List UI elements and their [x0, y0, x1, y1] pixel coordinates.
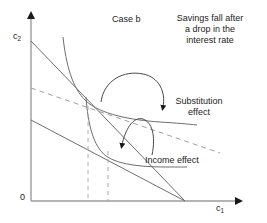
y-axis-label-text: c	[13, 31, 18, 41]
substitution-effect-label: Substitution effect	[168, 96, 230, 118]
x-axis-label-text: c	[216, 203, 221, 213]
substitution-effect-line-1: Substitution	[168, 96, 230, 107]
caption-line-1: Savings fall after	[160, 13, 260, 24]
y-axis-label: c2	[13, 31, 21, 42]
caption-block: Savings fall after a drop in the interes…	[160, 13, 260, 46]
substitution-effect-arrow	[101, 73, 164, 107]
x-axis-label-subscript: 1	[221, 207, 225, 214]
caption-line-3: interest rate	[160, 35, 260, 46]
y-axis-label-subscript: 2	[18, 35, 22, 42]
substitution-effect-line-2: effect	[168, 107, 230, 118]
case-title: Case b	[112, 14, 141, 25]
income-effect-arrow	[122, 119, 154, 155]
x-axis-label: c1	[216, 203, 224, 214]
economics-diagram: Case b Savings fall after a drop in the …	[0, 0, 267, 223]
origin-label: 0	[20, 192, 25, 203]
income-effect-label: Income effect	[145, 155, 199, 166]
caption-line-2: a drop in the	[160, 24, 260, 35]
